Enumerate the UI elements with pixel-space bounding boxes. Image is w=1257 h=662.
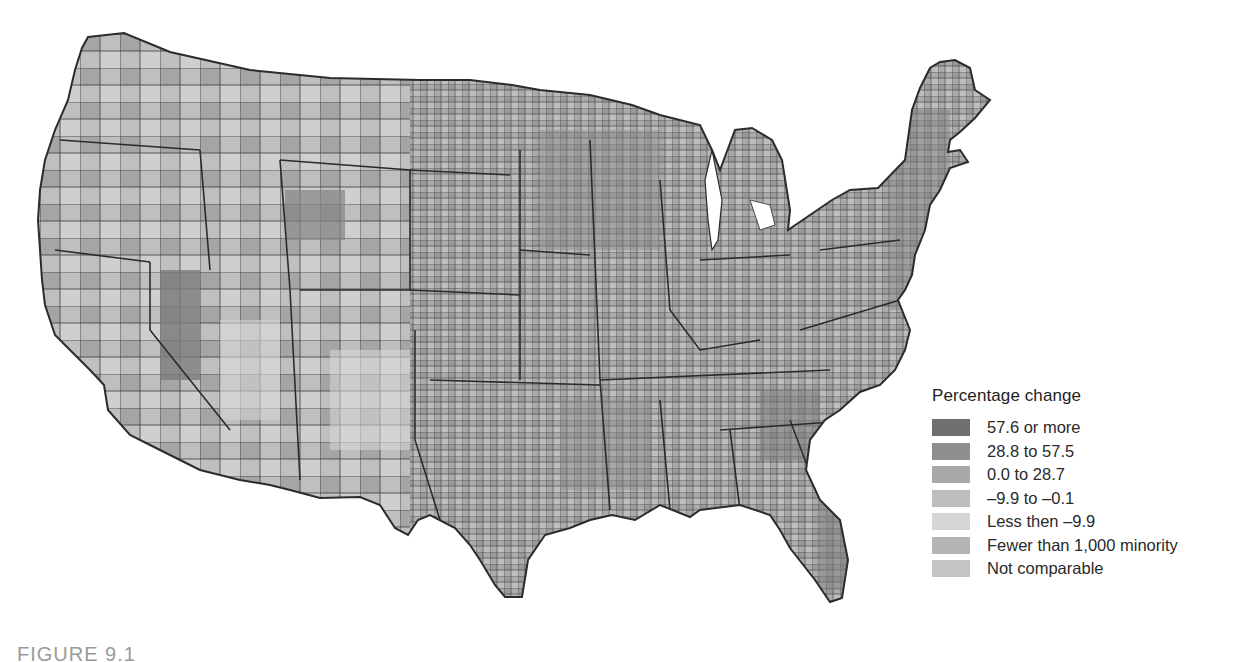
legend-swatch bbox=[932, 490, 970, 507]
legend-item: 57.6 or more bbox=[932, 416, 1178, 440]
legend-label: –9.9 to –0.1 bbox=[987, 489, 1074, 508]
legend-label: Less then –9.9 bbox=[987, 512, 1095, 531]
legend-label: 28.8 to 57.5 bbox=[987, 442, 1074, 461]
legend-swatch bbox=[932, 419, 970, 436]
legend-label: Not comparable bbox=[987, 559, 1103, 578]
figure-caption: FIGURE 9.1 bbox=[17, 643, 136, 662]
legend-label: Fewer than 1,000 minority bbox=[987, 536, 1178, 555]
legend-item: Less then –9.9 bbox=[932, 510, 1178, 534]
legend-label: 57.6 or more bbox=[987, 418, 1081, 437]
legend-item: Not comparable bbox=[932, 557, 1178, 581]
legend-item: 0.0 to 28.7 bbox=[932, 463, 1178, 487]
legend-item: 28.8 to 57.5 bbox=[932, 440, 1178, 464]
legend-swatch bbox=[932, 560, 970, 577]
legend-swatch bbox=[932, 513, 970, 530]
legend-swatch bbox=[932, 443, 970, 460]
legend-items: 57.6 or more 28.8 to 57.5 0.0 to 28.7 –9… bbox=[932, 416, 1178, 581]
legend-swatch bbox=[932, 537, 970, 554]
legend-title: Percentage change bbox=[932, 386, 1178, 406]
legend-item: –9.9 to –0.1 bbox=[932, 487, 1178, 511]
map-legend: Percentage change 57.6 or more 28.8 to 5… bbox=[932, 386, 1178, 581]
legend-label: 0.0 to 28.7 bbox=[987, 465, 1065, 484]
legend-item: Fewer than 1,000 minority bbox=[932, 534, 1178, 558]
legend-swatch bbox=[932, 466, 970, 483]
